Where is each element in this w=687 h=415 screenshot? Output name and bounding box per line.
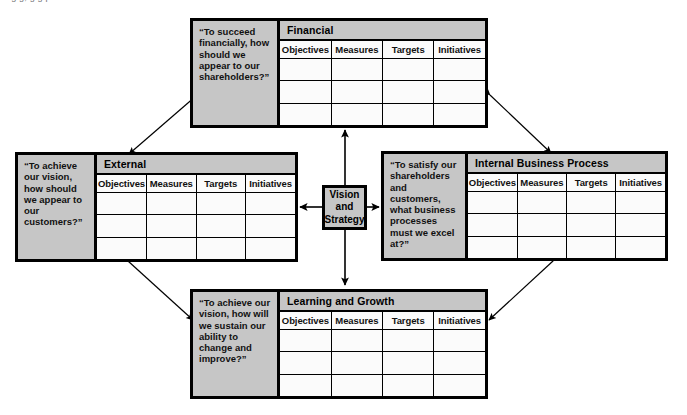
table-cell[interactable] bbox=[280, 103, 331, 125]
table-cell[interactable] bbox=[280, 330, 331, 352]
table-cell[interactable] bbox=[567, 236, 616, 258]
table-row bbox=[468, 214, 665, 236]
table-cell[interactable] bbox=[383, 59, 434, 81]
table-row bbox=[97, 237, 295, 259]
balanced-scorecard-diagram: ng g, g g p “To succeed fi bbox=[0, 0, 687, 415]
table-cell[interactable] bbox=[280, 81, 331, 103]
column-header-measures: Measures bbox=[331, 41, 382, 59]
table-cell[interactable] bbox=[567, 192, 616, 214]
column-header-targets: Targets bbox=[196, 175, 246, 193]
column-header-initiatives: Initiatives bbox=[616, 174, 665, 192]
table-cell[interactable] bbox=[196, 215, 246, 237]
table-cell[interactable] bbox=[147, 237, 197, 259]
table-cell[interactable] bbox=[331, 374, 382, 396]
table-cell[interactable] bbox=[468, 236, 517, 258]
perspective-box-internal-business-process[interactable]: “To satisfy our shareholders and custome… bbox=[381, 151, 668, 261]
table-cell[interactable] bbox=[97, 215, 147, 237]
perspective-question-external: “To achieve our vision, how should we ap… bbox=[18, 155, 94, 259]
column-header-initiatives: Initiatives bbox=[434, 41, 485, 59]
perspective-box-external[interactable]: “To achieve our vision, how should we ap… bbox=[15, 152, 298, 262]
perspective-title-external: External bbox=[97, 155, 295, 175]
table-cell[interactable] bbox=[280, 352, 331, 374]
vision-line-3: Strategy bbox=[325, 214, 365, 227]
vision-line-1: Vision bbox=[325, 189, 365, 202]
scorecard-table-learning-and-growth: Objectives Measures Targets Initiatives bbox=[280, 312, 485, 396]
table-cell[interactable] bbox=[616, 214, 665, 236]
table-cell[interactable] bbox=[517, 236, 566, 258]
table-row bbox=[280, 374, 485, 396]
table-cell[interactable] bbox=[383, 352, 434, 374]
table-cell[interactable] bbox=[331, 103, 382, 125]
column-header-objectives: Objectives bbox=[280, 41, 331, 59]
perspective-table-learning-and-growth: Learning and Growth Objectives Measures … bbox=[277, 292, 485, 396]
table-cell[interactable] bbox=[616, 236, 665, 258]
table-cell[interactable] bbox=[383, 103, 434, 125]
table-header-row: Objectives Measures Targets Initiatives bbox=[468, 174, 665, 192]
table-cell[interactable] bbox=[468, 214, 517, 236]
table-cell[interactable] bbox=[434, 81, 485, 103]
perspective-question-internal-business-process: “To satisfy our shareholders and custome… bbox=[384, 154, 465, 258]
table-cell[interactable] bbox=[147, 215, 197, 237]
table-cell[interactable] bbox=[280, 374, 331, 396]
table-header-row: Objectives Measures Targets Initiatives bbox=[280, 41, 485, 59]
column-header-objectives: Objectives bbox=[280, 312, 331, 330]
column-header-initiatives: Initiatives bbox=[246, 175, 296, 193]
perspective-box-financial[interactable]: “To succeed financially, how should we a… bbox=[190, 18, 488, 128]
table-row bbox=[280, 59, 485, 81]
column-header-targets: Targets bbox=[383, 312, 434, 330]
connector-financial-to-internal bbox=[490, 95, 551, 153]
table-cell[interactable] bbox=[196, 237, 246, 259]
column-header-measures: Measures bbox=[331, 312, 382, 330]
perspective-title-learning-and-growth: Learning and Growth bbox=[280, 292, 485, 312]
column-header-measures: Measures bbox=[147, 175, 197, 193]
table-cell[interactable] bbox=[331, 330, 382, 352]
table-row bbox=[280, 330, 485, 352]
table-row bbox=[468, 236, 665, 258]
perspective-table-external: External Objectives Measures Targets Ini… bbox=[94, 155, 295, 259]
table-cell[interactable] bbox=[331, 59, 382, 81]
perspective-question-learning-and-growth: “To achieve our vision, how will we sust… bbox=[193, 292, 277, 396]
table-row bbox=[280, 103, 485, 125]
table-cell[interactable] bbox=[383, 81, 434, 103]
table-row bbox=[97, 215, 295, 237]
table-cell[interactable] bbox=[147, 193, 197, 215]
table-header-row: Objectives Measures Targets Initiatives bbox=[97, 175, 295, 193]
table-cell[interactable] bbox=[434, 59, 485, 81]
table-cell[interactable] bbox=[434, 103, 485, 125]
table-cell[interactable] bbox=[468, 192, 517, 214]
table-cell[interactable] bbox=[196, 193, 246, 215]
table-cell[interactable] bbox=[434, 374, 485, 396]
table-cell[interactable] bbox=[246, 215, 296, 237]
table-cell[interactable] bbox=[331, 81, 382, 103]
connector-external-to-learning bbox=[128, 261, 193, 320]
table-cell[interactable] bbox=[517, 192, 566, 214]
table-cell[interactable] bbox=[434, 352, 485, 374]
column-header-measures: Measures bbox=[517, 174, 566, 192]
table-cell[interactable] bbox=[567, 214, 616, 236]
table-cell[interactable] bbox=[517, 214, 566, 236]
column-header-objectives: Objectives bbox=[468, 174, 517, 192]
table-cell[interactable] bbox=[434, 330, 485, 352]
vision-and-strategy-box[interactable]: Vision and Strategy bbox=[322, 185, 367, 230]
table-row bbox=[280, 81, 485, 103]
scorecard-table-internal-business-process: Objectives Measures Targets Initiatives bbox=[468, 174, 665, 258]
table-cell[interactable] bbox=[280, 59, 331, 81]
perspective-question-financial: “To succeed financially, how should we a… bbox=[193, 21, 277, 125]
scorecard-table-financial: Objectives Measures Targets Initiatives bbox=[280, 41, 485, 125]
table-row bbox=[468, 192, 665, 214]
table-cell[interactable] bbox=[97, 237, 147, 259]
vision-line-2: and bbox=[325, 201, 365, 214]
perspective-box-learning-and-growth[interactable]: “To achieve our vision, how will we sust… bbox=[190, 289, 488, 399]
table-cell[interactable] bbox=[331, 352, 382, 374]
connector-financial-to-external bbox=[129, 96, 196, 154]
table-cell[interactable] bbox=[246, 237, 296, 259]
table-cell[interactable] bbox=[383, 330, 434, 352]
table-cell[interactable] bbox=[246, 193, 296, 215]
perspective-title-financial: Financial bbox=[280, 21, 485, 41]
scorecard-table-external: Objectives Measures Targets Initiatives bbox=[97, 175, 295, 259]
table-cell[interactable] bbox=[616, 192, 665, 214]
table-cell[interactable] bbox=[97, 193, 147, 215]
table-header-row: Objectives Measures Targets Initiatives bbox=[280, 312, 485, 330]
perspective-table-financial: Financial Objectives Measures Targets In… bbox=[277, 21, 485, 125]
table-cell[interactable] bbox=[383, 374, 434, 396]
